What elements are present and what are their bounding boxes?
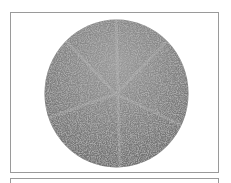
textured-disc-image	[44, 19, 189, 168]
lower-panel	[10, 178, 219, 183]
